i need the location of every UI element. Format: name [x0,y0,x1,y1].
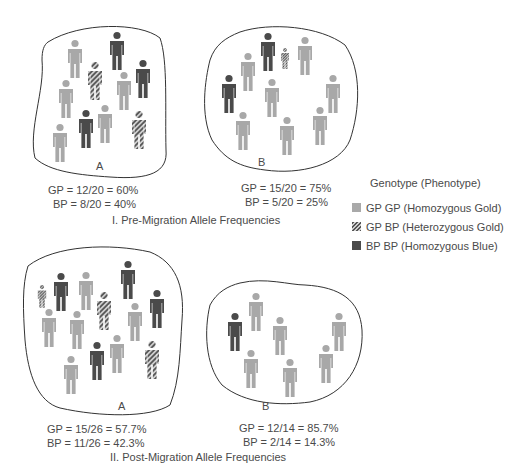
person-heterozygous-icon [88,62,102,100]
person-gold-icon [64,356,78,394]
person-blue-icon [54,273,68,311]
person-gold-icon [68,40,82,78]
pre-a-bp-frequency: BP = 8/20 = 40% [53,198,136,210]
person-blue-icon [136,60,150,98]
person-heterozygous-icon [145,341,159,379]
pre-a-gp-frequency: GP = 12/20 = 60% [48,184,138,196]
person-gold-icon [70,311,84,349]
post-migration-title: II. Post-Migration Allele Frequencies [110,451,286,463]
population-label-post-a: A [118,400,125,412]
person-gold-icon [280,117,294,155]
person-gold-icon [298,37,312,75]
pre-b-gp-frequency: GP = 15/20 = 75% [241,182,331,194]
person-blue-icon [228,313,242,351]
population-label-pre-b: B [258,156,265,168]
person-gold-icon [332,313,346,351]
person-gold-icon [241,53,255,91]
person-heterozygous-icon [132,111,146,149]
person-gold-icon [236,112,250,150]
person-gold-icon [283,359,297,397]
person-blue-icon [121,261,135,299]
person-gold-icon [110,335,124,373]
person-blue-icon [110,32,124,70]
population-label-pre-a: A [96,160,103,172]
person-gold-icon [98,105,112,143]
person-gold-icon [326,75,340,113]
person-blue-icon [261,33,275,71]
person-heterozygous-icon [38,285,46,308]
pre-migration-title: I. Pre-Migration Allele Frequencies [112,214,280,226]
legend-item-homozygous-blue: BP BP (Homozygous Blue) [352,236,504,255]
person-gold-icon [265,79,279,117]
gold-swatch-icon [352,203,361,212]
post-b-gp-frequency: GP = 12/14 = 85.7% [239,422,338,434]
legend-title: Genotype (Phenotype) [370,177,504,189]
person-gold-icon [117,72,131,110]
legend-label: GP BP (Heterozygous Gold) [366,221,504,233]
legend-item-heterozygous-gold: GP BP (Heterozygous Gold) [352,217,504,236]
person-blue-icon [150,290,164,328]
genotype-legend: Genotype (Phenotype) GP GP (Homozygous G… [352,177,504,255]
dark-swatch-icon [352,241,361,250]
legend-item-homozygous-gold: GP GP (Homozygous Gold) [352,198,504,217]
person-gold-icon [42,309,56,347]
legend-label: GP GP (Homozygous Gold) [366,202,501,214]
population-boundary-pre-a [33,26,166,177]
person-blue-icon [90,342,104,380]
person-gold-icon [53,124,67,162]
population-label-post-b: B [262,400,269,412]
person-gold-icon [128,303,142,341]
person-gold-icon [273,317,287,355]
person-gold-icon [79,272,93,310]
person-heterozygous-icon [97,292,111,330]
legend-label: BP BP (Homozygous Blue) [366,240,498,252]
hatched-swatch-icon [352,222,361,231]
pre-b-bp-frequency: BP = 5/20 = 25% [245,196,328,208]
person-gold-icon [313,107,327,145]
post-a-bp-frequency: BP = 11/26 = 42.3% [47,437,144,449]
post-b-bp-frequency: BP = 2/14 = 14.3% [243,436,335,448]
person-gold-icon [59,80,73,118]
person-heterozygous-icon [281,48,289,69]
person-gold-icon [244,350,258,388]
person-blue-icon [222,75,236,113]
person-gold-icon [319,345,333,383]
person-blue-icon [79,110,93,148]
person-gold-icon [249,293,263,331]
post-a-gp-frequency: GP = 15/26 = 57.7% [47,423,146,435]
